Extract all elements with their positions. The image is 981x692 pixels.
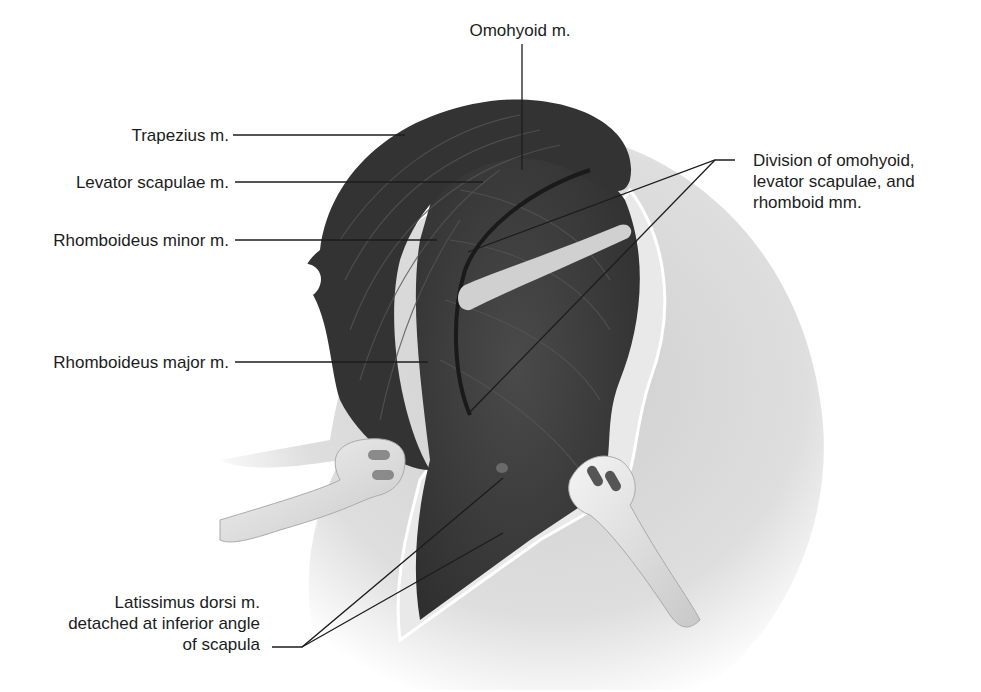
label-omohyoid: Omohyoid m.: [445, 20, 595, 41]
illustration: [0, 0, 981, 692]
label-latissimus-line-1: Latissimus dorsi m.: [68, 592, 260, 613]
label-division: Division of omohyoid, levator scapulae, …: [753, 150, 915, 213]
label-division-line-3: rhomboid mm.: [753, 192, 915, 213]
label-latissimus-line-3: of scapula: [68, 634, 260, 655]
anatomical-figure: Omohyoid m. Trapezius m. Levator scapula…: [0, 0, 981, 692]
label-trapezius: Trapezius m.: [131, 125, 229, 146]
label-rhomboideus-major: Rhomboideus major m.: [53, 352, 229, 373]
label-division-line-1: Division of omohyoid,: [753, 150, 915, 171]
label-levator-scapulae: Levator scapulae m.: [76, 172, 229, 193]
label-rhomboideus-minor: Rhomboideus minor m.: [53, 230, 229, 251]
nodule: [496, 463, 508, 473]
label-division-line-2: levator scapulae, and: [753, 171, 915, 192]
label-latissimus: Latissimus dorsi m. detached at inferior…: [68, 592, 260, 655]
label-latissimus-line-2: detached at inferior angle: [68, 613, 260, 634]
